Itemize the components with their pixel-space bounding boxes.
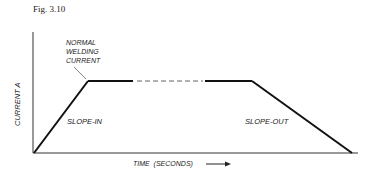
annotation-line-1: NORMAL <box>66 39 96 46</box>
slope-out-label: SLOPE-OUT <box>245 117 290 126</box>
annotation-leader <box>74 67 86 79</box>
arrow-right-icon <box>206 162 231 167</box>
y-axis-label: CURRENT A <box>13 83 22 126</box>
current-time-diagram: NORMAL WELDING CURRENT SLOPE-IN SLOPE-OU… <box>0 0 378 179</box>
annotation-line-2: WELDING <box>66 48 99 55</box>
slope-in-label: SLOPE-IN <box>67 117 103 126</box>
x-axis-label: TIME (SECONDS) <box>133 160 193 168</box>
annotation-line-3: CURRENT <box>66 57 101 64</box>
